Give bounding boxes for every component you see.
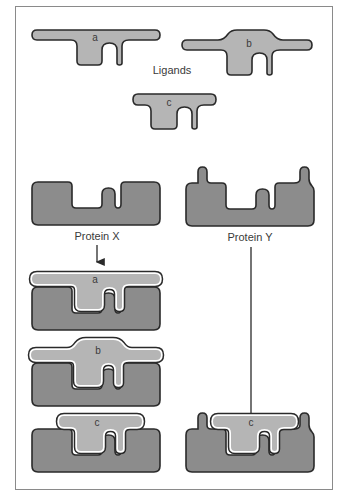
complex-x-c-label: c bbox=[95, 417, 100, 428]
ligand-b: b bbox=[182, 30, 312, 75]
protein-y bbox=[186, 167, 314, 226]
protein-x-label: Protein X bbox=[74, 230, 119, 242]
ligand-c-label: c bbox=[167, 97, 172, 108]
ligand-a: a bbox=[32, 30, 160, 65]
protein-y-label: Protein Y bbox=[227, 231, 272, 243]
ligands-label: Ligands bbox=[153, 64, 192, 76]
ligand-b-label: b bbox=[246, 38, 252, 49]
complex-x-a-label: a bbox=[92, 274, 98, 285]
complex-x-b-label: b bbox=[95, 345, 101, 356]
complex-y-c: c bbox=[186, 413, 314, 472]
complex-x-c: c bbox=[32, 416, 160, 472]
complex-x-b: b bbox=[31, 340, 161, 406]
complex-x-a: a bbox=[32, 274, 160, 330]
complex-y-c-label: c bbox=[249, 417, 254, 428]
ligand-a-label: a bbox=[92, 32, 98, 43]
ligand-c: c bbox=[133, 94, 216, 129]
protein-x bbox=[32, 182, 160, 225]
